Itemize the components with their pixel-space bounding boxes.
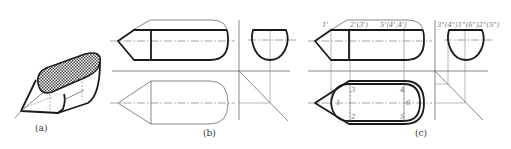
caption-c: (c): [415, 128, 427, 138]
label-2-prime: 2'(3'): [349, 21, 368, 29]
axis-stub: [15, 110, 22, 118]
body-mid-line: [64, 90, 84, 100]
top-outline: [118, 81, 228, 124]
panel-a-isometric: (a): [15, 53, 100, 133]
label-6: 6: [406, 99, 411, 107]
top-view-b: [110, 81, 235, 124]
label-1-prime: 1': [322, 21, 328, 29]
cut-face-shaded: [38, 53, 100, 93]
caption-b: (b): [203, 128, 216, 138]
label-side: 3"(4")1"(6")2"(5"): [437, 21, 500, 29]
side-outline-c: [448, 30, 484, 60]
label-4: 4: [399, 86, 404, 94]
45-degree-line: [239, 71, 288, 121]
front-outline-c: [315, 30, 424, 60]
phantom-top-outline: [133, 20, 228, 36]
label-2: 2: [350, 113, 356, 121]
label-1: 1: [336, 99, 340, 107]
hidden-axis: [24, 97, 52, 108]
45-degree-line-c: [435, 71, 483, 120]
panel-b: (b): [110, 20, 296, 138]
side-view-c: [444, 30, 492, 60]
figure-canvas: (a) (b): [0, 0, 511, 149]
top-view-c: [308, 81, 432, 124]
label-5: 5: [400, 113, 405, 121]
panel-c: 1' 2'(3') 5'(4',4') 3"(4")1"(6")2"(5") 1…: [308, 20, 500, 138]
front-outline: [118, 30, 228, 60]
front-view-b: [110, 20, 235, 60]
side-view-b: [248, 30, 296, 60]
label-5-prime: 5'(4',4'): [380, 21, 407, 29]
label-3: 3: [351, 86, 356, 94]
caption-a: (a): [35, 123, 47, 133]
phantom-top-outline-c: [331, 20, 424, 36]
